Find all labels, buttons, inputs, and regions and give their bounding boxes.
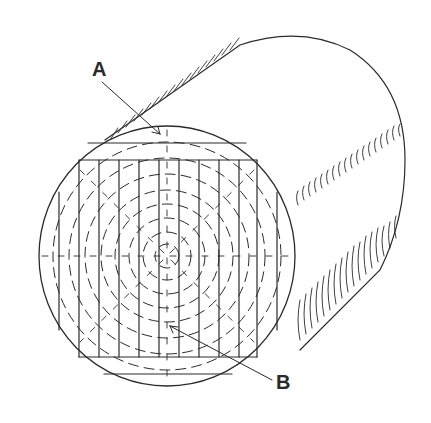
label-a: A <box>92 58 106 81</box>
label-b: B <box>276 371 290 394</box>
bark-hatching-mid <box>297 124 401 205</box>
bark-hatching-bottom <box>298 216 396 340</box>
log-diagram <box>0 0 431 423</box>
bark-hatching-top <box>110 38 239 140</box>
